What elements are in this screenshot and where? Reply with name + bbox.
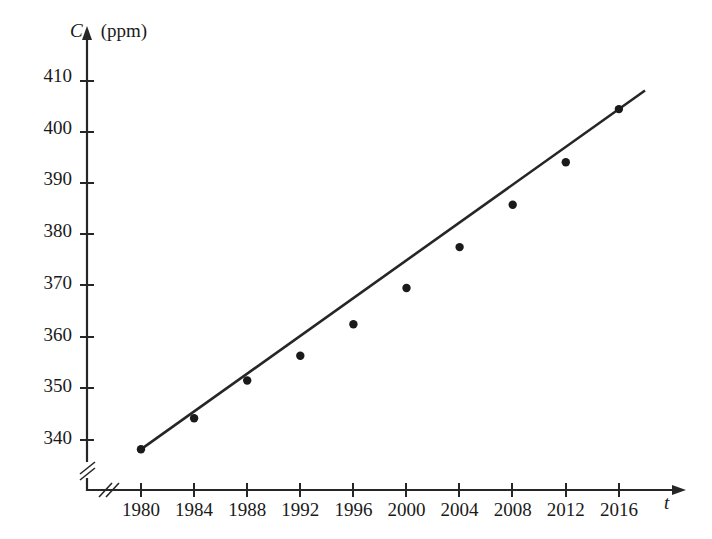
chart-container: C(ppm) t 340350360370380390400410 198019…	[0, 0, 712, 539]
data-point	[296, 352, 304, 360]
data-point	[455, 243, 463, 251]
y-tick-label: 370	[22, 272, 72, 294]
data-point	[402, 284, 410, 292]
y-axis-unit: (ppm)	[101, 20, 147, 41]
y-axis-break-icon	[80, 462, 95, 480]
x-tick-label: 2012	[536, 499, 596, 521]
x-tick-label: 1984	[164, 499, 224, 521]
x-tick-label: 2004	[430, 499, 490, 521]
x-axis-title: t	[664, 492, 669, 514]
x-tick-label: 2016	[589, 499, 649, 521]
y-tick-label: 380	[22, 220, 72, 242]
data-point	[349, 320, 357, 328]
data-point	[615, 105, 623, 113]
y-tick-label: 390	[22, 168, 72, 190]
x-tick-label: 1980	[111, 499, 171, 521]
y-tick-label: 400	[22, 117, 72, 139]
x-tick-label: 2008	[483, 499, 543, 521]
y-tick-label: 360	[22, 324, 72, 346]
data-point	[243, 376, 251, 384]
data-point	[509, 201, 517, 209]
y-tick-label: 350	[22, 375, 72, 397]
x-tick-label: 1988	[217, 499, 277, 521]
y-tick-label: 340	[22, 427, 72, 449]
x-tick-label: 1992	[270, 499, 330, 521]
y-axis-title: C(ppm)	[70, 20, 147, 42]
regression-line	[138, 91, 645, 452]
x-tick-label: 2000	[377, 499, 437, 521]
data-point	[190, 414, 198, 422]
y-tick-label: 410	[22, 65, 72, 87]
y-axis-variable: C	[70, 20, 83, 41]
data-point	[562, 158, 570, 166]
x-axis-arrowhead	[672, 485, 686, 495]
data-point	[137, 445, 145, 453]
x-tick-label: 1996	[323, 499, 383, 521]
chart-plot-area	[0, 0, 712, 539]
